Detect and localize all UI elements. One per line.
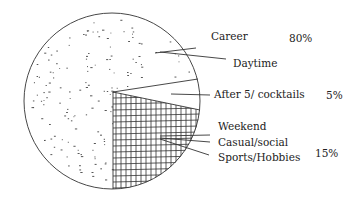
- label-after5-pct: 5%: [326, 89, 343, 101]
- label-weekend: Weekend: [218, 120, 267, 132]
- label-career-pct: 80%: [289, 32, 312, 44]
- leader-after5: [171, 94, 210, 95]
- slice-divider-after5-top: [113, 79, 198, 92]
- label-weekend-pct: 15%: [315, 147, 338, 159]
- pie-chart: Career 80% Daytime After 5/ cocktails 5%…: [0, 0, 360, 203]
- label-career: Career: [211, 30, 249, 42]
- leader-daytime: [160, 52, 226, 59]
- label-casual: Casual/social: [218, 136, 289, 148]
- leader-weekend: [160, 135, 210, 136]
- label-after5: After 5/ cocktails: [213, 88, 305, 100]
- label-daytime: Daytime: [233, 57, 277, 69]
- label-sports: Sports/Hobbies: [218, 151, 300, 163]
